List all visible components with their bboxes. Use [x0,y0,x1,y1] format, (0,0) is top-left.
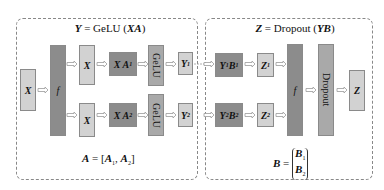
z2-node: Z2 [257,103,274,127]
reduce-f-node: f [287,44,303,136]
z1-node: Z1 [257,53,274,77]
y2b2-node: Y2B2 [215,103,243,127]
gelu-top-node: GeLU [148,45,164,86]
b-definition: B = B1 B2 [273,148,308,180]
gelu-bottom-node: GeLU [148,94,164,136]
x-bottom-node: X [79,103,95,137]
split-f-node: f [50,45,66,136]
dropout-node: Dropout [318,44,334,136]
dropout-group-title: Z = Dropout (YB) [240,22,350,34]
input-x-node: X [20,69,36,111]
y1-node: Y1 [178,52,193,75]
xa2-node: X A2 [109,103,137,127]
gelu-group-title: Y = GeLU (XA) [60,22,160,34]
xa1-node: X A1 [109,52,137,76]
a-definition: A = [A1, A2] [82,152,135,166]
output-z-node: Z [349,70,365,111]
b-matrix: B1 B2 [292,148,308,180]
y2-node: Y2 [178,103,193,127]
y1b1-node: Y1B1 [215,53,243,77]
x-top-node: X [79,45,95,85]
